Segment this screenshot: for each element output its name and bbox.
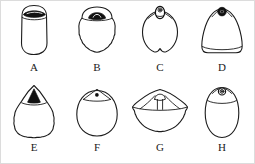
specimen-label-g: G xyxy=(128,141,192,153)
specimen-label-f: F xyxy=(65,141,129,153)
specimen-e xyxy=(2,82,66,144)
specimen-label-b: B xyxy=(65,61,129,73)
specimen-label-d: D xyxy=(190,61,254,73)
apical-pore-dot xyxy=(96,94,99,97)
figure-plate: A B C xyxy=(0,0,255,164)
specimen-b xyxy=(65,2,129,64)
specimen-label-h: H xyxy=(190,141,254,153)
specimen-c xyxy=(128,2,192,64)
specimen-label-a: A xyxy=(2,61,66,73)
specimen-d xyxy=(190,2,254,64)
specimen-g xyxy=(128,82,192,144)
specimen-h xyxy=(190,82,254,144)
specimen-label-c: C xyxy=(128,61,192,73)
specimen-a xyxy=(2,2,66,64)
specimen-f xyxy=(65,82,129,144)
specimen-label-e: E xyxy=(2,141,66,153)
